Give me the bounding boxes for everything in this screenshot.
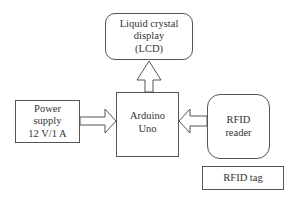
reader-line-2: reader [225,127,251,140]
power-line-1: Power [34,103,61,116]
lcd-block: Liquid crystal display (LCD) [105,13,193,60]
arrow-arduino-to-lcd [137,61,161,92]
arrow-reader-to-arduino [179,109,207,133]
arduino-line-2: Uno [138,123,156,136]
lcd-line-3: (LCD) [135,43,163,56]
rfid-tag-block: RFID tag [202,166,284,190]
lcd-line-2: display [134,30,164,43]
arrow-power-to-arduino [80,109,116,133]
arduino-block: Arduino Uno [116,92,179,157]
power-supply-block: Power supply 12 V/1 A [15,100,80,143]
rfid-tag-label: RFID tag [223,172,262,185]
rfid-reader-block: RFID reader [207,94,270,159]
power-line-3: 12 V/1 A [28,128,66,141]
reader-line-1: RFID [227,114,251,127]
lcd-line-1: Liquid crystal [120,18,179,31]
arduino-line-1: Arduino [130,110,165,123]
power-line-2: supply [33,115,61,128]
